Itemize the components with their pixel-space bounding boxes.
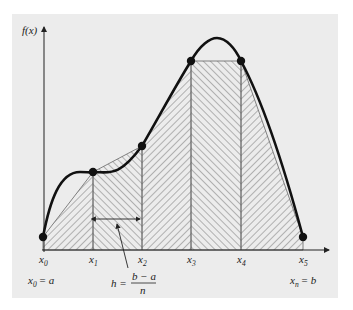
point-x3 <box>187 57 195 65</box>
left-endpoint-label: x0= a <box>27 274 55 289</box>
trapezoid-2 <box>93 146 142 250</box>
point-x1 <box>89 168 97 176</box>
x2-label: x2 <box>137 253 147 268</box>
trapezoid-4 <box>191 61 241 250</box>
point-x5 <box>299 233 307 241</box>
point-x4 <box>237 57 245 65</box>
x0-label: x0 <box>38 253 48 268</box>
h-denominator: n <box>140 284 146 296</box>
y-axis-label: f(x) <box>22 24 38 37</box>
x1-label: x1 <box>88 253 98 268</box>
x5-label: x5 <box>298 253 308 268</box>
h-equals: h = <box>111 277 127 289</box>
trapezoid-5 <box>241 61 303 250</box>
trapezoid-3 <box>142 61 191 250</box>
step-size-formula: h = b − a n <box>111 270 156 296</box>
x4-label: x4 <box>236 253 246 268</box>
point-x0 <box>39 233 47 241</box>
point-x2 <box>138 142 146 150</box>
trapezoid-1 <box>43 172 93 250</box>
x3-label: x3 <box>186 253 196 268</box>
trapezoid-diagram: f(x) x0 x1 x2 x3 x4 x5 x0= a xn= b h = b… <box>0 0 353 310</box>
h-numerator: b − a <box>132 270 156 282</box>
right-endpoint-label: xn= b <box>289 274 317 289</box>
